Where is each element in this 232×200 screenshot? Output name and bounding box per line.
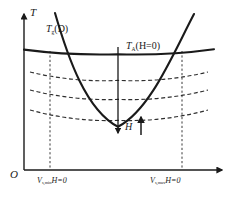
v-max-label: Vs,maxH=0 [150, 177, 180, 185]
y-axis-label: T [30, 7, 36, 18]
curve-tg-label: Tg(D) [46, 24, 68, 34]
isofield-curve-3 [30, 110, 208, 121]
v-min-label: Vs,minH=0 [37, 177, 67, 185]
curve-ta-argument: (H=0) [136, 40, 161, 51]
curve-tg-subscript: g [52, 29, 55, 35]
figure-container: T O Tg(D) TA(H=0) H Vs,minH=0 Vs,maxH=0 [0, 0, 232, 200]
v-max-condition: H=0 [165, 176, 180, 185]
curve-ta-label: TA(H=0) [126, 41, 160, 51]
curve-tg-symbol: T [46, 23, 52, 34]
curve-tg-argument: (D) [54, 23, 68, 34]
axis-group [24, 14, 222, 170]
plot-canvas [0, 0, 232, 200]
curve-tg-d [55, 13, 194, 127]
field-label: H [125, 122, 132, 132]
curve-ta-symbol: T [126, 40, 132, 51]
v-min-subscript: s,min [42, 180, 52, 185]
isofield-curve-1 [30, 72, 208, 81]
origin-label: O [10, 169, 18, 180]
v-max-subscript: s,max [155, 180, 165, 185]
dashed-curve-group [30, 72, 208, 121]
curve-ta-subscript: A [132, 46, 136, 52]
curve-ta-h0 [24, 49, 214, 54]
v-min-condition: H=0 [52, 176, 67, 185]
guide-line-group [50, 51, 182, 169]
isofield-curve-2 [30, 90, 208, 100]
